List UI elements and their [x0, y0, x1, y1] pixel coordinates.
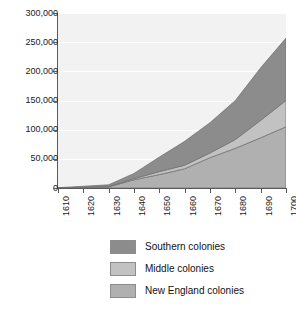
y-axis-tick-mark [53, 101, 57, 102]
x-axis-tick-mark [134, 189, 135, 193]
plot-area [58, 13, 286, 188]
y-axis-tick-label: 50,000 [2, 154, 58, 163]
legend-color-swatch [110, 284, 136, 298]
y-axis-tick-mark [53, 42, 57, 43]
y-axis-tick-mark [53, 71, 57, 72]
legend-item-label: Southern colonies [145, 242, 225, 252]
x-axis-tick-mark [159, 189, 160, 193]
y-axis-tick-mark [53, 130, 57, 131]
x-axis-tick-label: 1650 [163, 196, 172, 216]
x-axis-tick-label: 1630 [113, 196, 122, 216]
legend-item: Southern colonies [110, 238, 290, 256]
x-axis-line [57, 188, 287, 189]
x-axis-tick-label: 1640 [138, 196, 147, 216]
x-axis-tick-mark [261, 189, 262, 193]
y-axis-tick-label: 200,000 [2, 67, 58, 76]
x-axis-tick-label: 1700 [290, 196, 296, 216]
legend-item: New England colonies [110, 282, 290, 300]
legend-color-swatch [110, 262, 136, 276]
x-axis-tick-mark [286, 189, 287, 193]
x-axis-tick-mark [83, 189, 84, 193]
x-axis-tick-mark [235, 189, 236, 193]
y-axis-tick-label: 0 [2, 184, 58, 193]
y-axis-tick-mark [53, 159, 57, 160]
legend-color-swatch [110, 240, 136, 254]
area-series-group [58, 13, 286, 188]
chart-legend: Southern coloniesMiddle coloniesNew Engl… [110, 238, 290, 304]
legend-item-label: New England colonies [145, 286, 244, 296]
x-axis-tick-label: 1660 [189, 196, 198, 216]
y-axis-tick-label: 250,000 [2, 38, 58, 47]
x-axis-tick-label: 1670 [214, 196, 223, 216]
x-axis-tick-mark [210, 189, 211, 193]
x-axis-tick-mark [58, 189, 59, 193]
y-axis-tick-label: 300,000 [2, 9, 58, 18]
x-axis-tick-label: 1690 [265, 196, 274, 216]
y-axis-tick-mark [53, 13, 57, 14]
x-axis-tick-mark [109, 189, 110, 193]
stacked-area-chart: 050,000100,000150,000200,000250,000300,0… [0, 0, 296, 232]
y-axis-tick-label: 150,000 [2, 96, 58, 105]
legend-item: Middle colonies [110, 260, 290, 278]
y-axis-tick-label: 100,000 [2, 125, 58, 134]
legend-item-label: Middle colonies [145, 264, 214, 274]
y-axis-tick-mark [53, 188, 57, 189]
x-axis-tick-label: 1620 [87, 196, 96, 216]
x-axis-tick-label: 1680 [239, 196, 248, 216]
x-axis-tick-mark [185, 189, 186, 193]
x-axis-tick-label: 1610 [62, 196, 71, 216]
